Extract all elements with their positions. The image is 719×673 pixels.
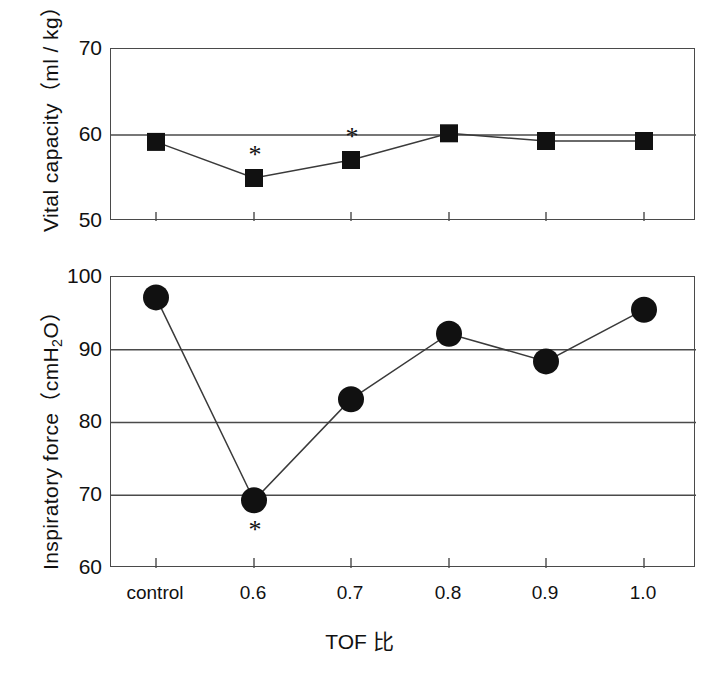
bottom-chart-point-10 — [631, 297, 657, 323]
top-chart-significance-star-06: * — [249, 142, 262, 168]
bottom-chart-plot-area — [110, 276, 695, 567]
bottom-chart-ytick-70: 70 — [46, 483, 102, 504]
bottom-chart-point-06 — [241, 487, 267, 513]
x-axis-label-09: 0.9 — [532, 583, 558, 602]
bottom-chart-y-axis-title-prefix: Inspiratory force（cmH — [39, 347, 62, 570]
bottom-chart-ytick-60: 60 — [46, 556, 102, 577]
top-chart-point-06 — [245, 169, 263, 187]
figure-root: Vital capacity（ml / kg） 70 60 50 * * — [0, 0, 719, 673]
top-chart-point-10 — [635, 132, 653, 150]
top-chart-ytick-70: 70 — [56, 37, 102, 58]
bottom-chart-ytick-100: 100 — [46, 265, 102, 286]
top-chart-series-line — [156, 133, 644, 178]
bottom-chart-svg — [111, 277, 696, 568]
x-axis-label-08: 0.8 — [435, 583, 461, 602]
top-chart-point-08 — [440, 124, 458, 142]
bottom-chart-ytick-90: 90 — [46, 338, 102, 359]
bottom-chart-ytick-80: 80 — [46, 410, 102, 431]
top-chart-point-control — [147, 133, 165, 151]
x-axis-title: TOF 比 — [0, 625, 719, 655]
top-chart-ytick-60: 60 — [56, 123, 102, 144]
bottom-chart-y-axis-title-suffix: O） — [39, 300, 62, 338]
top-chart-point-07 — [342, 151, 360, 169]
x-axis-label-10: 1.0 — [630, 583, 656, 602]
x-axis-label-06: 0.6 — [240, 583, 266, 602]
top-chart-plot-area — [110, 48, 695, 220]
bottom-chart-series-line — [156, 297, 644, 500]
bottom-chart-point-08 — [436, 321, 462, 347]
bottom-chart-point-07 — [338, 386, 364, 412]
bottom-chart-point-09 — [533, 348, 559, 374]
bottom-chart-point-control — [143, 284, 169, 310]
top-chart-ytick-50: 50 — [56, 209, 102, 230]
top-chart-svg — [111, 49, 696, 221]
x-axis-label-07: 0.7 — [337, 583, 363, 602]
top-chart-point-09 — [537, 132, 555, 150]
bottom-chart-significance-star-06: * — [249, 517, 262, 543]
x-axis-label-control: control — [126, 583, 183, 602]
top-chart-y-axis-title: Vital capacity（ml / kg） — [34, 0, 64, 232]
top-chart-significance-star-07: * — [346, 124, 359, 150]
